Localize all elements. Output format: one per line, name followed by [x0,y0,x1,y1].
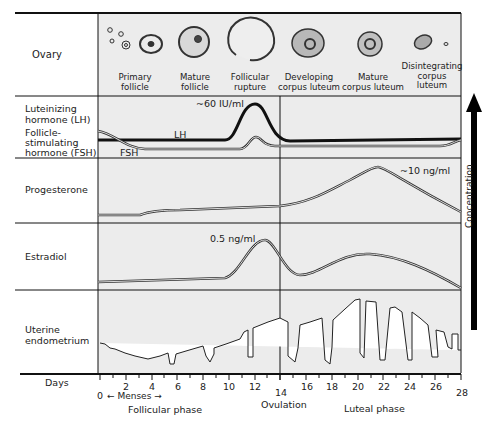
tick-8: 8 [193,381,213,392]
tick-24: 24 [400,381,420,392]
row-label-fsh: Follicle- stimulating hormone (FSH) [25,128,96,158]
tick-26: 26 [426,381,446,392]
fsh-curve-label: FSH [120,147,138,158]
lh-curve-label: LH [174,129,186,140]
days-axis-label: Days [45,377,69,388]
estradiol-peak-label: 0.5 ng/ml [210,233,255,244]
luteal-phase-label: Luteal phase [344,403,405,414]
endo-label-line2: endometrium [25,336,89,347]
stage-mature-corpus-luteum: Maturecorpus luteum [342,73,404,92]
tick-10: 10 [219,381,239,392]
row-label-progesterone: Progesterone [25,185,88,196]
progesterone-peak-label: ~10 ng/ml [400,165,450,176]
stage-follicular-rupture: Follicularrupture [222,73,278,92]
ovulation-label: Ovulation [261,399,307,410]
stage-disintegrating-corpus-luteum: Disintegratingcorpusluteum [396,62,468,91]
concentration-label: Concentration [464,164,474,228]
tick-22: 22 [374,381,394,392]
row-label-estradiol: Estradiol [25,252,67,263]
stage-mature-follicle: Maturefollicle [170,73,220,92]
row-label-lh: Luteinizing hormone (LH) [25,104,90,125]
endo-label-line1: Uterine [25,325,89,336]
row-label-ovary: Ovary [32,50,62,61]
tick-16: 16 [297,381,317,392]
tick-18: 18 [322,381,342,392]
tick-14: 14 [271,387,291,398]
follicular-phase-label: Follicular phase [128,404,202,415]
arrow-head-icon [466,93,482,112]
stage-developing-corpus-luteum: Developingcorpus luteum [276,73,342,92]
tick-28: 28 [452,387,472,398]
lh-label-line1: Luteinizing [25,104,90,115]
tick-12: 12 [245,381,265,392]
fsh-label-line3: hormone (FSH) [25,148,96,158]
tick-20: 20 [348,381,368,392]
lh-label-line2: hormone (LH) [25,115,90,126]
stage-primary-follicle: Primaryfollicle [110,73,160,92]
lh-peak-label: ~60 IU/ml [196,98,244,109]
tick-6: 6 [168,381,188,392]
row-label-endometrium: Uterine endometrium [25,325,89,346]
menses-label: ← Menses → [107,391,162,401]
